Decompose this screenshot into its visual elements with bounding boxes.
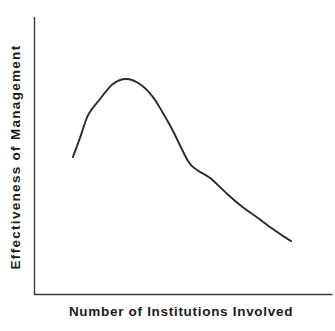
y-axis-label: Effectiveness of Management (8, 45, 23, 270)
x-axis-label: Number of Institutions Involved (69, 304, 293, 319)
line-chart: Effectiveness of Management Number of In… (0, 0, 335, 331)
chart-canvas (0, 0, 335, 331)
effectiveness-curve (73, 79, 291, 241)
